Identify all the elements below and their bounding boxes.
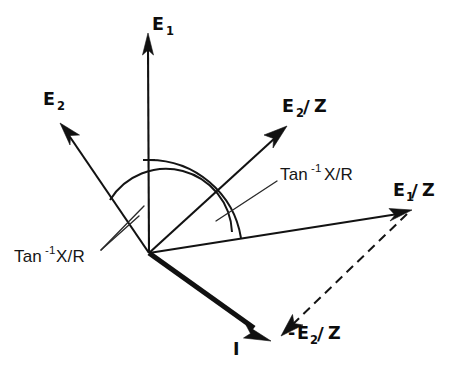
- label-angle-left: Tan -1 X/R: [14, 244, 85, 266]
- label-e1-subscript: 1: [166, 24, 174, 38]
- vector-e2: [60, 123, 149, 253]
- label-neg-e2-over-z-base: E: [297, 323, 309, 343]
- label-e1-over-z-denominator: Z: [422, 180, 435, 200]
- label-angle-right-arg: X/R: [324, 165, 353, 184]
- label-e2-over-z-slash: /: [303, 96, 310, 117]
- label-neg-e2-over-z-minus: -: [288, 323, 296, 343]
- label-e1-over-z: E 1 / Z: [393, 180, 435, 204]
- label-neg-e2-over-z-denominator: Z: [328, 323, 341, 343]
- angle-arc-large: [149, 160, 241, 238]
- label-angle-right: Tan -1 X/R: [280, 162, 353, 184]
- label-current-i-text: I: [233, 339, 240, 359]
- label-e1: E 1: [152, 14, 174, 38]
- label-e2: E 2: [43, 89, 65, 113]
- label-e2-base: E: [43, 89, 55, 109]
- label-angle-right-fn: Tan: [280, 165, 308, 184]
- vector-e2-shaft: [70, 137, 149, 253]
- dashed-closure-shaft: [292, 214, 407, 325]
- label-e2-over-z-base: E: [282, 96, 294, 116]
- phasor-diagram-figure: E 1 E 2 E 2 / Z E 1 / Z - E 2 / Z: [0, 0, 463, 377]
- vector-current-i: [149, 253, 271, 341]
- label-e1-over-z-slash: /: [411, 180, 418, 201]
- vector-e1: [143, 33, 154, 253]
- label-angle-left-superscript: -1: [45, 244, 56, 256]
- label-angle-left-fn: Tan: [14, 247, 42, 266]
- label-e2-subscript: 2: [57, 99, 65, 113]
- label-current-i: I: [233, 339, 240, 359]
- leader-line-angle-right: [216, 181, 277, 221]
- vector-e1-shaft: [148, 48, 149, 253]
- vector-e2-arrowhead: [60, 123, 80, 145]
- vector-neg-e2-over-z-dashed: [281, 214, 407, 336]
- label-neg-e2-over-z-slash: /: [317, 323, 324, 344]
- phasor-diagram-canvas: E 1 E 2 E 2 / Z E 1 / Z - E 2 / Z: [0, 0, 463, 377]
- label-e2-over-z-denominator: Z: [314, 96, 327, 116]
- vector-current-i-shaft: [149, 253, 254, 328]
- label-angle-right-superscript: -1: [311, 162, 322, 174]
- label-e1-over-z-base: E: [393, 180, 405, 200]
- label-angle-left-arg: X/R: [56, 247, 85, 266]
- vector-current-i-arrowhead: [244, 325, 272, 341]
- label-e2-over-z: E 2 / Z: [282, 96, 327, 120]
- label-e1-base: E: [152, 14, 164, 34]
